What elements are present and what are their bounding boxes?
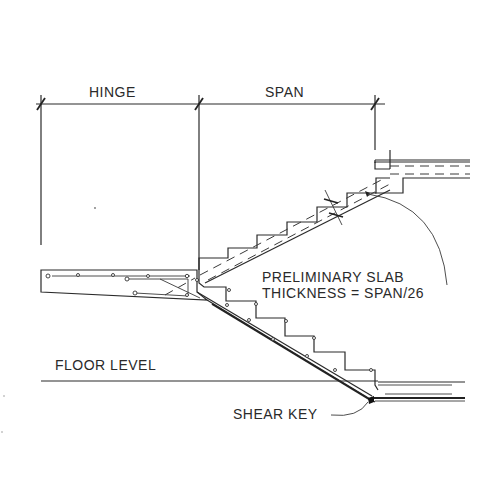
slab-thickness-label-line2: THICKNESS = SPAN/26 — [262, 285, 424, 301]
slab-thickness-label-line1: PRELIMINARY SLAB — [262, 269, 404, 285]
hinge-landing — [41, 270, 207, 300]
shear-key-mark — [368, 396, 374, 404]
stray-dot — [94, 207, 96, 209]
shear-key-leader — [331, 402, 368, 415]
upper-landing — [375, 150, 470, 193]
dimension-line — [36, 95, 385, 270]
stair-section-drawing: HINGE SPAN — [0, 0, 503, 486]
lower-floor-slab — [368, 382, 465, 404]
stray-dot — [1, 431, 3, 433]
hinge-label: HINGE — [89, 84, 136, 100]
stray-dot — [3, 395, 5, 397]
upper-flight — [199, 178, 390, 283]
shear-key-label: SHEAR KEY — [233, 406, 318, 422]
floor-level-label: FLOOR LEVEL — [55, 357, 156, 373]
span-label: SPAN — [265, 84, 304, 100]
